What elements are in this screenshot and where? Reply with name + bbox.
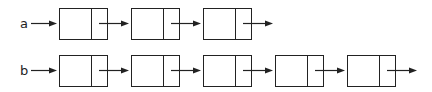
linked-list-diagram: a b [0,0,432,92]
head-pointer-arrow-a [31,21,57,27]
list-b: b [20,56,417,87]
head-pointer-arrow-b [31,68,57,74]
list-a: a [20,9,273,40]
list-label-b: b [20,63,28,78]
list-label-a: a [20,16,28,31]
